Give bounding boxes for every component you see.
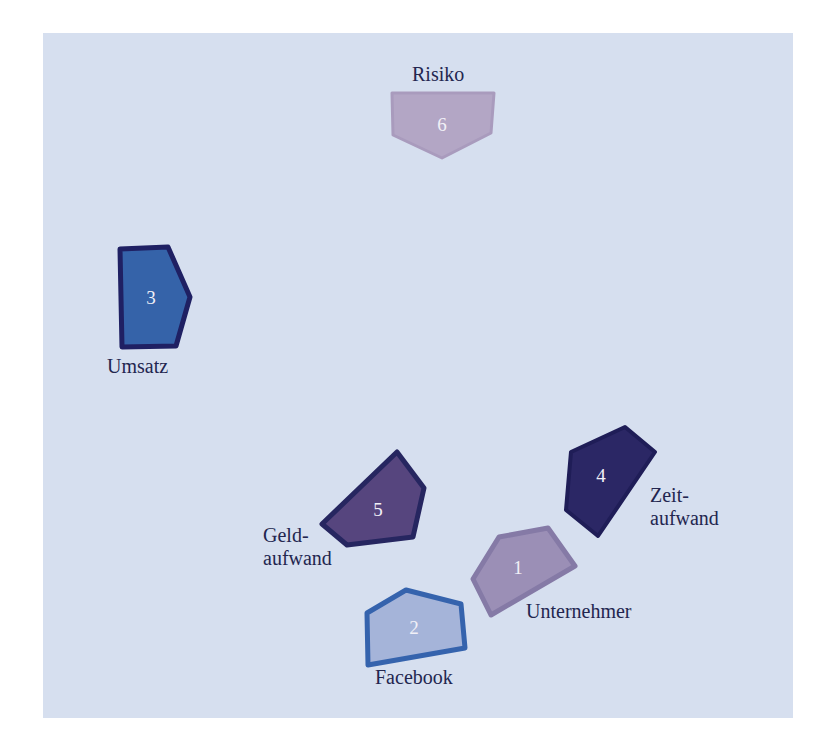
- node-5-geldaufwand: 5: [322, 452, 424, 545]
- label-zeitaufwand: Zeit- aufwand: [650, 484, 719, 530]
- node-3-umsatz: 3: [120, 247, 190, 347]
- node-6-risiko: 6: [392, 93, 494, 158]
- node-3-number: 3: [146, 287, 156, 308]
- node-1-number: 1: [513, 557, 523, 578]
- node-2-number: 2: [409, 617, 419, 638]
- label-geldaufwand: Geld- aufwand: [263, 524, 332, 570]
- label-risiko: Risiko: [412, 63, 464, 86]
- node-5-number: 5: [373, 499, 383, 520]
- node-4-number: 4: [596, 465, 606, 486]
- label-facebook: Facebook: [375, 666, 453, 689]
- node-4-zeitaufwand: 4: [566, 427, 655, 536]
- node-2-facebook: 2: [367, 590, 465, 665]
- node-4-shape: [566, 427, 655, 536]
- label-unternehmer: Unternehmer: [526, 600, 632, 623]
- node-6-number: 6: [437, 114, 447, 135]
- label-umsatz: Umsatz: [107, 355, 168, 378]
